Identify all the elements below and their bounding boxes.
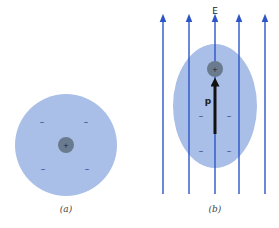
caption-b: (b)	[209, 204, 222, 214]
electron-minus-sign: –	[85, 164, 90, 174]
electron-minus-sign: –	[199, 111, 204, 121]
polarization-diagram: + – – – – (a) E p + – – – – (b)	[0, 0, 279, 228]
electron-minus-sign: –	[199, 146, 204, 156]
nucleus-plus-sign: +	[212, 66, 218, 74]
field-label-e: E	[212, 6, 218, 16]
electron-minus-sign: –	[40, 117, 45, 127]
panel-b: E p + – – – – (b)	[163, 6, 265, 214]
dipole-label-p: p	[205, 96, 212, 106]
caption-a: (a)	[60, 204, 73, 214]
nucleus-plus-sign: +	[63, 142, 69, 150]
electron-minus-sign: –	[227, 111, 232, 121]
panel-a: + – – – – (a)	[15, 94, 117, 214]
electron-minus-sign: –	[84, 117, 89, 127]
electron-minus-sign: –	[227, 146, 232, 156]
electron-minus-sign: –	[41, 164, 46, 174]
